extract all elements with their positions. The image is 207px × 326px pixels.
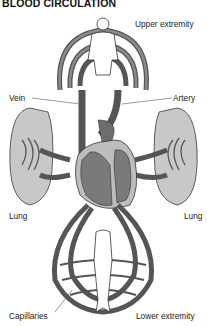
label-lung-left: Lung (9, 211, 27, 221)
label-capillaries: Capillaries (9, 311, 48, 321)
label-vein: Vein (9, 93, 25, 103)
circulation-diagram (0, 0, 207, 326)
right-lung (154, 108, 197, 205)
label-lung-right: Lung (184, 211, 202, 221)
label-lower-extremity: Lower extremity (136, 311, 195, 321)
upper-body (88, 18, 118, 75)
label-artery: Artery (173, 93, 195, 103)
left-lung (10, 108, 53, 205)
label-upper-extremity: Upper extremity (135, 19, 194, 29)
